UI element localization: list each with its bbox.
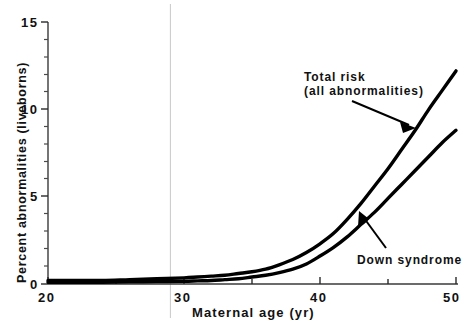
x-axis-title: Maternal age (yr)	[192, 305, 315, 320]
curve-total-risk	[48, 71, 456, 281]
total-risk-annotation: Total risk (all abnormalities)	[304, 70, 424, 98]
total-risk-annotation-line-1: Total risk	[304, 70, 424, 84]
y-axis-major-ticks	[41, 22, 48, 284]
y-tick-label-15: 15	[21, 15, 39, 30]
plot-area	[0, 0, 464, 323]
y-tick-label-5: 5	[30, 189, 39, 204]
x-tick-label-50: 50	[443, 290, 461, 305]
down-syndrome-annotation: Down syndrome	[357, 253, 462, 267]
x-tick-label-30: 30	[174, 290, 192, 305]
down-syndrome-annotation-line-1: Down syndrome	[357, 253, 462, 267]
total-risk-leader-arrow	[352, 101, 416, 133]
chart-figure: 15 10 5 0 20 30 40 50 Percent abnormalit…	[0, 0, 464, 323]
x-tick-label-20: 20	[38, 290, 56, 305]
x-tick-label-40: 40	[310, 290, 328, 305]
y-axis-title: Percent abnormalities (liveborns)	[15, 62, 29, 283]
total-risk-annotation-line-2: (all abnormalities)	[304, 84, 424, 98]
